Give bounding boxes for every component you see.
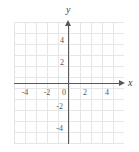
x-tick-label-neg2: -2 <box>40 89 54 97</box>
y-tick-label-neg2: -2 <box>49 103 63 111</box>
coordinate-plane-figure: x y -4 -2 0 2 4 4 2 -2 -4 <box>0 0 139 152</box>
y-axis-arrow-icon <box>65 20 71 26</box>
x-tick-label-pos4: 4 <box>100 89 114 97</box>
y-axis-label: y <box>66 5 70 15</box>
x-tick-label-pos2: 2 <box>78 89 92 97</box>
x-tick-label-zero: 0 <box>57 89 71 97</box>
x-axis-arrow-icon <box>119 80 125 86</box>
x-axis-label: x <box>128 78 132 88</box>
y-tick-label-neg4: -4 <box>49 125 63 133</box>
x-tick-label-neg4: -4 <box>18 89 32 97</box>
y-axis-line <box>68 23 69 144</box>
y-tick-label-pos2: 2 <box>50 59 64 67</box>
y-tick-label-pos4: 4 <box>50 37 64 45</box>
